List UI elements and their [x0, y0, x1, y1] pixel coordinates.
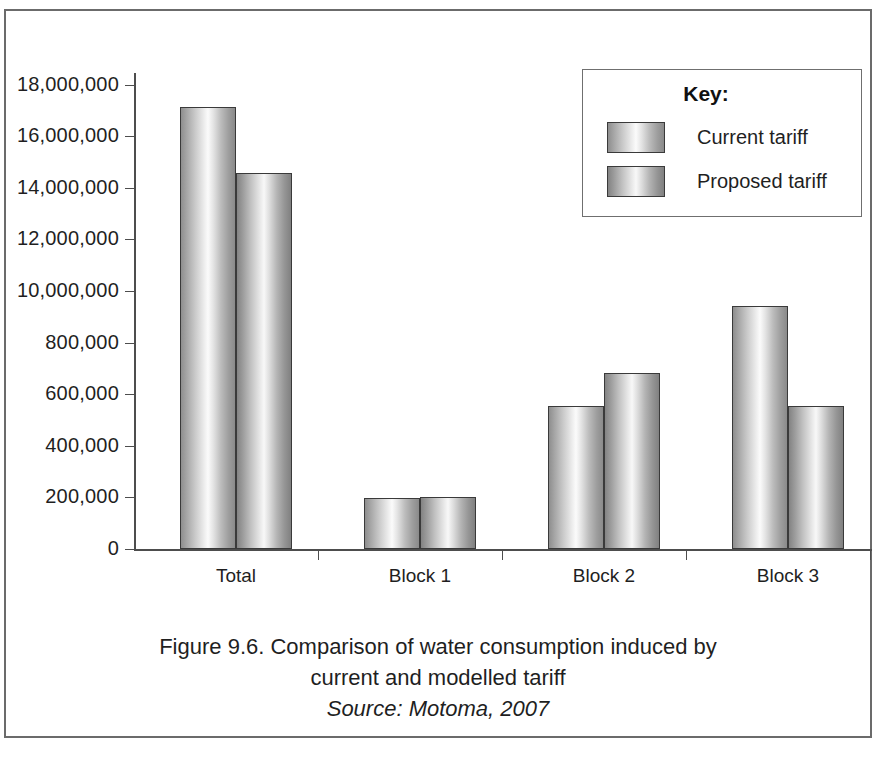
y-axis-tick: 16,000,000: [125, 136, 134, 137]
x-axis-label-block1: Block 1: [350, 565, 490, 587]
bar-block2-current[interactable]: [548, 406, 604, 549]
bar-total-current[interactable]: [180, 107, 236, 549]
x-axis-label-block3: Block 3: [718, 565, 858, 587]
y-axis-tick-label: 16,000,000: [17, 124, 119, 147]
y-axis-tick-label: 200,000: [45, 485, 119, 508]
legend-swatch-proposed-tariff: [607, 166, 665, 197]
bar-block1-proposed[interactable]: [420, 497, 476, 549]
x-axis-tick: [686, 551, 687, 560]
y-axis-tick: 18,000,000: [125, 85, 134, 86]
y-axis-tick-label: 600,000: [45, 382, 119, 405]
bar-block3-current[interactable]: [732, 306, 788, 549]
figure-frame: 0 200,000 400,000 600,000 800,000 10,000…: [4, 9, 872, 738]
x-axis-tick: [502, 551, 503, 560]
y-axis-line: [134, 73, 136, 551]
x-axis-label-total: Total: [166, 565, 306, 587]
y-axis-tick-label: 0: [108, 537, 119, 560]
caption-source: Source: Motoma, 2007: [46, 693, 830, 724]
x-axis-line: [134, 549, 872, 551]
y-axis-tick-label: 800,000: [45, 331, 119, 354]
legend-item-current-tariff[interactable]: Current tariff: [607, 120, 851, 154]
legend-label-current-tariff: Current tariff: [697, 126, 808, 149]
y-axis-tick-label: 12,000,000: [17, 227, 119, 250]
legend-item-proposed-tariff[interactable]: Proposed tariff: [607, 164, 851, 198]
legend-swatch-current-tariff: [607, 122, 665, 153]
y-axis-tick: 14,000,000: [125, 188, 134, 189]
y-axis-tick: 800,000: [125, 343, 134, 344]
y-axis-tick: 400,000: [125, 446, 134, 447]
legend-label-proposed-tariff: Proposed tariff: [697, 170, 827, 193]
y-axis-tick-label: 400,000: [45, 434, 119, 457]
y-axis-tick-label: 18,000,000: [17, 73, 119, 96]
caption-line-1: Figure 9.6. Comparison of water consumpt…: [46, 631, 830, 662]
legend-title: Key:: [551, 82, 861, 106]
chart-legend: Key: Current tariff Proposed tariff: [582, 69, 862, 217]
y-axis-tick: 10,000,000: [125, 291, 134, 292]
y-axis-tick: 12,000,000: [125, 239, 134, 240]
y-axis-tick: 600,000: [125, 394, 134, 395]
bar-block1-current[interactable]: [364, 498, 420, 549]
y-axis-tick: 200,000: [125, 497, 134, 498]
caption-line-2: current and modelled tariff: [46, 662, 830, 693]
y-axis-tick-label: 14,000,000: [17, 176, 119, 199]
bar-total-proposed[interactable]: [236, 173, 292, 549]
bar-block3-proposed[interactable]: [788, 406, 844, 549]
y-axis-tick-label: 10,000,000: [17, 279, 119, 302]
x-axis-tick: [870, 551, 871, 560]
x-axis-label-block2: Block 2: [534, 565, 674, 587]
bar-block2-proposed[interactable]: [604, 373, 660, 549]
y-axis-tick: 0: [125, 549, 134, 550]
figure-caption: Figure 9.6. Comparison of water consumpt…: [46, 631, 830, 724]
x-axis-tick: [318, 551, 319, 560]
